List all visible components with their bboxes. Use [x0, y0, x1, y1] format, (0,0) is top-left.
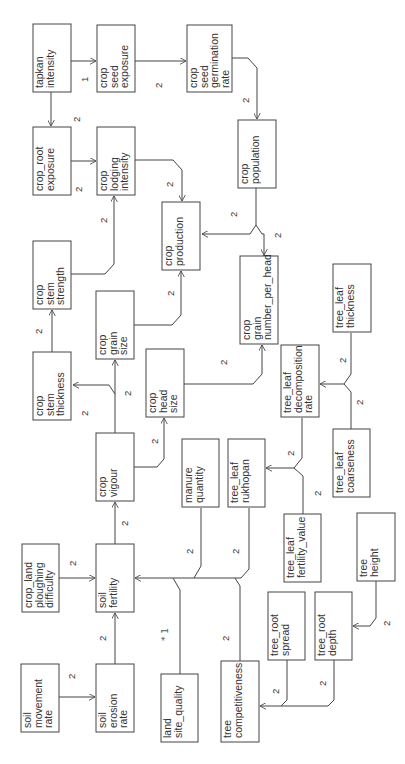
node-crop-grain-size: cropgrainsize — [96, 291, 134, 359]
node-tree-competitiveness: treecompetitiveness — [221, 661, 259, 742]
node-label: population — [249, 135, 261, 184]
node-crop-root-exposure: crop_rootexposure — [33, 127, 71, 195]
edge-label: 2 — [184, 549, 195, 554]
node-crop-seed-exposure: cropseedexposure — [97, 25, 135, 92]
edge-label: 2 — [119, 521, 130, 526]
node-crop-seed-germination-rate: cropseedgerminationrate — [187, 25, 232, 92]
node-label: vigour — [107, 468, 119, 497]
node-label: spread — [279, 624, 291, 656]
node-manure-quantity: manurequantity — [182, 439, 219, 507]
node-label: height — [368, 548, 380, 577]
node-label: fertility — [107, 577, 119, 608]
node-crop-head-size: cropheadsize — [146, 349, 184, 417]
edge-label: 2 — [153, 83, 164, 88]
node-label: rate — [219, 70, 231, 88]
node-layer: tapkanintensitycropseedexposurecropseedg… — [21, 24, 395, 742]
node-crop-population: croppopulation — [238, 120, 276, 188]
node-label: intensity — [44, 49, 56, 88]
node-label: rukhopan — [239, 459, 251, 503]
edge-label: 1 — [79, 77, 90, 82]
node-label: production — [173, 217, 185, 266]
edge-label: 2 — [285, 451, 296, 456]
node-soil-movement-rate: soilmovementrate — [21, 664, 59, 732]
node-crop-vigour: cropvigour — [96, 433, 134, 501]
node-tree-leaf-decomposition-rate: tree_leafdecompositionrate — [281, 345, 319, 417]
node-tree-root-depth: tree_rootdepth — [315, 592, 352, 660]
edge-label: 2 — [230, 549, 241, 554]
node-label: quantity — [193, 465, 205, 503]
node-label: size — [167, 394, 179, 413]
node-label: rate — [302, 395, 314, 413]
edge-label: 2 — [272, 233, 283, 238]
node-label: strength — [54, 267, 66, 305]
edge-label: 2 — [228, 212, 239, 217]
node-tapkan-intensity: tapkanintensity — [33, 24, 71, 92]
node-land-site-quality: landsite_quality — [161, 674, 198, 742]
node-tree-height: treeheight — [357, 513, 395, 581]
edge-label: 2 — [240, 98, 251, 103]
node-crop-land-ploughing-difficulty: crop_landploughingdifficulty — [22, 544, 59, 612]
node-label: thickness — [344, 284, 356, 328]
node-label: exposure — [44, 148, 56, 191]
node-label: competitiveness — [232, 663, 244, 738]
causal-diagram: tapkanintensitycropseedexposurecropseedg… — [0, 0, 405, 764]
edge-label: 2 — [149, 439, 160, 444]
edge-label: 2 — [33, 329, 44, 334]
edge-label: 2 — [98, 218, 109, 223]
node-tree-leaf-fertility-value: tree_leaffertility_value — [284, 514, 321, 582]
node-label: difficulty — [43, 570, 55, 608]
edge-label: 2 — [97, 636, 108, 641]
edge-label: 2 — [67, 561, 78, 566]
node-tree-leaf-thickness: tree_leafthickness — [333, 264, 371, 332]
node-soil-erosion-rate: soilerosionrate — [96, 664, 134, 732]
node-label: intensity — [118, 152, 130, 191]
edge-label: 2 — [354, 400, 365, 405]
node-label: thickness — [54, 372, 66, 416]
node-label: rate — [117, 710, 129, 728]
node-label: coarseness — [344, 439, 356, 493]
node-tree-leaf-rukhopan: tree_leafrukhopan — [228, 439, 265, 507]
edge-label: 2 — [165, 291, 176, 296]
edge-label: 2 — [79, 411, 90, 416]
node-label: size — [117, 336, 129, 355]
edge-label: 2 — [71, 117, 82, 122]
edge-label: 2 — [312, 491, 323, 496]
edge-label: 2 — [220, 636, 231, 641]
node-label: rate — [42, 710, 54, 728]
node-crop-stem-thickness: cropstemthickness — [33, 352, 71, 420]
edge-label: 2 — [164, 182, 175, 187]
edge-label: 2 — [337, 358, 348, 363]
edge-label: 2 — [122, 391, 133, 396]
node-label: fertility_value — [295, 517, 307, 578]
node-tree-leaf-coarseness: tree_leafcoarseness — [333, 429, 370, 497]
node-label: exposure — [118, 45, 130, 88]
edge-label: 2 — [66, 674, 77, 679]
edge-label: 2 — [218, 360, 229, 365]
node-label: depth — [326, 630, 338, 656]
edge-label: 2 — [73, 187, 84, 192]
node-tree-root-spread: tree_rootspread — [268, 592, 305, 660]
edge-label: 2 — [381, 621, 392, 626]
node-crop-production: cropproduction — [162, 202, 200, 270]
node-label: number_per_head — [261, 254, 273, 340]
node-crop-grain-number-per-head: cropgrainnumber_per_head — [240, 254, 278, 344]
edge-label: * 1 — [160, 628, 170, 641]
node-crop-lodging-intensity: croplodgingintensity — [97, 127, 135, 195]
edge-label: 2 — [270, 689, 281, 694]
node-label: site_quality — [172, 685, 184, 738]
node-crop-stem-strength: cropstemstrength — [33, 241, 71, 309]
node-soil-fertility: soilfertility — [96, 544, 134, 612]
edge-label: 2 — [317, 681, 328, 686]
